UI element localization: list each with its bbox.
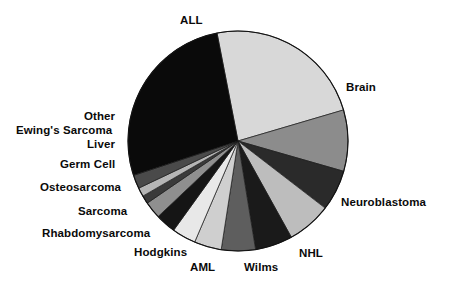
slice-label-osteosarcoma: Osteosarcoma bbox=[40, 181, 121, 194]
slice-label-liver: Liver bbox=[87, 138, 115, 151]
pie-chart: ALL Brain Neuroblastoma NHL Wilms AML Ho… bbox=[0, 0, 452, 291]
slice-label-wilms: Wilms bbox=[244, 261, 278, 274]
slice-label-neuroblastoma: Neuroblastoma bbox=[341, 196, 426, 209]
slice-label-aml: AML bbox=[190, 261, 215, 274]
slice-label-rhabdomysarcoma: Rhabdomysarcoma bbox=[42, 227, 150, 240]
slice-label-all: ALL bbox=[180, 14, 203, 27]
slice-label-ewings-sarcoma: Ewing's Sarcoma bbox=[16, 124, 112, 137]
slice-label-germ-cell: Germ Cell bbox=[60, 158, 115, 171]
slice-label-nhl: NHL bbox=[299, 247, 323, 260]
pie-slices-group bbox=[128, 31, 348, 251]
slice-label-sarcoma: Sarcoma bbox=[78, 205, 127, 218]
slice-label-other: Other bbox=[84, 110, 115, 123]
pie-chart-canvas bbox=[0, 0, 452, 291]
slice-label-hodgkins: Hodgkins bbox=[134, 246, 187, 259]
slice-label-brain: Brain bbox=[346, 81, 376, 94]
